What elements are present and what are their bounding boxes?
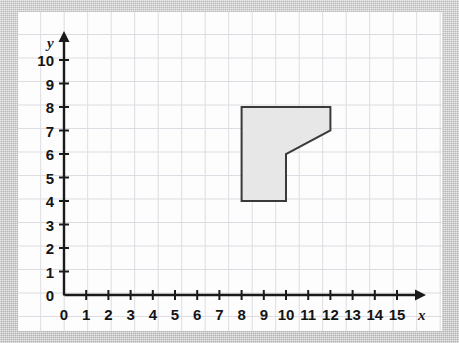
y-tick-label-3: 3 (22, 218, 54, 233)
plot-svg (18, 12, 442, 331)
y-tick-label-4: 4 (22, 194, 54, 209)
figure-stage: 0123456789101112131415123456789100xy (0, 0, 459, 343)
x-axis-label: x (418, 308, 426, 323)
plot-area: 0123456789101112131415123456789100xy (18, 12, 442, 331)
y-tick-label-6: 6 (22, 147, 54, 162)
y-tick-label-5: 5 (22, 171, 54, 186)
x-tick-label-15: 15 (383, 307, 411, 322)
y-tick-label-8: 8 (22, 100, 54, 115)
y-tick-label-7: 7 (22, 124, 54, 139)
origin-label: 0 (22, 288, 54, 303)
y-tick-label-2: 2 (22, 241, 54, 256)
shaded-polygon (242, 107, 331, 201)
y-tick-label-1: 1 (22, 265, 54, 280)
y-tick-label-10: 10 (22, 53, 54, 68)
graph-panel: 0123456789101112131415123456789100xy (18, 12, 442, 331)
y-axis-label: y (47, 36, 54, 51)
y-axis-arrow-icon (59, 31, 70, 42)
y-tick-label-9: 9 (22, 77, 54, 92)
x-axis-arrow-icon (415, 290, 426, 301)
